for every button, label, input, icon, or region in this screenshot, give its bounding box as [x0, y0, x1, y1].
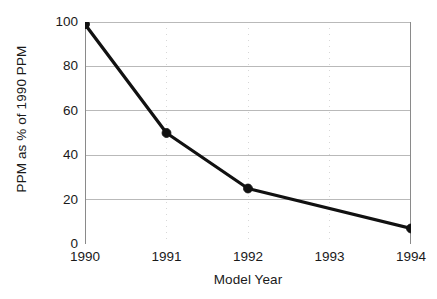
vertical-gridlines — [167, 22, 330, 244]
chart-figure: PPM as % of 1990 PPM 020406080100 199019… — [0, 0, 437, 299]
data-series-markers — [85, 22, 411, 233]
plot-svg — [85, 22, 411, 244]
x-axis-tick-label: 1993 — [300, 248, 360, 266]
plot-area — [85, 22, 411, 244]
x-axis-tick-label: 1992 — [218, 248, 278, 266]
x-axis-tick-label: 1994 — [381, 248, 437, 266]
horizontal-gridlines — [85, 22, 411, 244]
y-axis-title: PPM as % of 1990 PPM — [14, 0, 36, 252]
y-axis-tick-label: 80 — [36, 58, 78, 74]
y-axis-tick-label: 40 — [36, 147, 78, 163]
y-axis-tick-label: 60 — [36, 103, 78, 119]
x-axis-tick-label: 1991 — [137, 248, 197, 266]
x-axis-tick-label: 1990 — [55, 248, 115, 266]
y-axis-tick-label: 20 — [36, 192, 78, 208]
data-series-line — [85, 24, 411, 228]
axis-lines — [86, 22, 411, 244]
y-axis-tick-label: 100 — [36, 14, 78, 30]
x-axis-title: Model Year — [85, 272, 411, 287]
